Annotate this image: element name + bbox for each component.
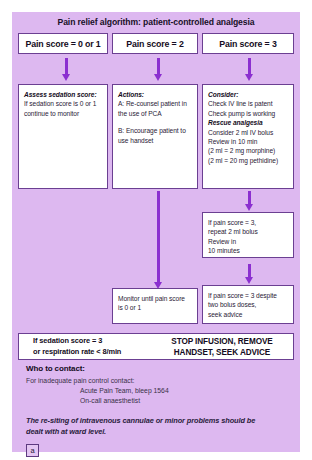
assess-sedation-heading: Assess sedation score: <box>24 90 103 99</box>
seek-advice-line-2: seek advice <box>208 310 289 319</box>
contact-section: Who to contact: For inadequate pain cont… <box>26 364 288 406</box>
arrow-col1-to-body <box>157 58 160 75</box>
score-header-box-0: Pain score = 0 or 1 <box>18 33 108 54</box>
alert-condition-line-0: If sedation score = 3 <box>33 336 159 347</box>
arrow-step2-to-step3 <box>248 264 251 278</box>
monitor-box: Monitor until pain score is 0 or 1 <box>112 288 198 324</box>
actions-heading: Actions: <box>118 90 193 99</box>
actions-text: Actions: A: Re-counsel patient in the us… <box>113 85 197 149</box>
consider-heading: Consider: <box>208 90 289 99</box>
actions-line-3: B: Encourage patient to <box>118 126 193 135</box>
seek-advice-line-1: two bolus doses, <box>208 300 289 309</box>
alert-condition-line-1: or respiration rate < 8/min <box>33 347 159 358</box>
actions-line-4: use handset <box>118 136 193 145</box>
figure-label-a: a <box>26 444 39 457</box>
score-header-label-1: Pain score = 2 <box>126 39 183 49</box>
seek-advice-text: If pain score = 3 despite two bolus dose… <box>203 286 293 323</box>
rescue-analgesia-subheading: Rescue analgesia <box>208 118 289 127</box>
arrow-actions-to-monitor <box>157 191 160 283</box>
seek-advice-line-0: If pain score = 3 despite <box>208 291 289 300</box>
contact-line-0: For inadequate pain control contact: <box>26 376 288 386</box>
repeat-bolus-line-2: Review in <box>208 237 289 246</box>
monitor-line-0: Monitor until pain score <box>118 294 193 303</box>
figure-title: Pain relief algorithm: patient-controlle… <box>12 17 300 27</box>
figure-panel: Pain relief algorithm: patient-controlle… <box>12 12 300 452</box>
consider-line-5: (2 ml = 20 mg pethidine) <box>208 156 289 165</box>
footnote: The re-siting of intravenous cannulae or… <box>26 416 292 437</box>
consider-line-1: Check pump is working <box>208 109 289 118</box>
assess-sedation-line-1: continue to monitor <box>24 109 103 118</box>
arrow-col0-to-body <box>65 58 68 75</box>
assess-sedation-line-0: If sedation score is 0 or 1 <box>24 99 103 108</box>
score-header-box-2: Pain score = 3 <box>202 33 294 54</box>
contact-indented-line-1: On-call anaesthetist <box>26 396 288 406</box>
contact-heading: Who to contact: <box>26 364 288 373</box>
monitor-text: Monitor until pain score is 0 or 1 <box>113 289 197 317</box>
assess-sedation-text: Assess sedation score: If sedation score… <box>19 85 107 122</box>
consider-line-0: Check IV line is patent <box>208 99 289 108</box>
consider-text: Consider: Check IV line is patent Check … <box>203 85 293 169</box>
alert-action-line-0: STOP INFUSION, REMOVE <box>159 336 285 347</box>
consider-line-4: (2 ml = 2 mg morphine) <box>208 146 289 155</box>
alert-action: STOP INFUSION, REMOVE HANDSET, SEEK ADVI… <box>159 336 293 358</box>
repeat-bolus-line-1: repeat 2 ml bolus <box>208 227 289 236</box>
score-header-label-2: Pain score = 3 <box>219 39 276 49</box>
consider-line-2: Consider 2 ml IV bolus <box>208 128 289 137</box>
arrow-consider-to-step2 <box>248 191 251 205</box>
critical-alert-box: If sedation score = 3 or respiration rat… <box>18 333 294 360</box>
actions-line-1: the use of PCA <box>118 109 193 118</box>
repeat-bolus-line-0: If pain score = 3, <box>208 218 289 227</box>
consider-line-3: Review in 10 min <box>208 137 289 146</box>
arrow-col2-to-body <box>248 58 251 75</box>
actions-box: Actions: A: Re-counsel patient in the us… <box>112 84 198 189</box>
alert-condition: If sedation score = 3 or respiration rat… <box>19 336 159 357</box>
repeat-bolus-box: If pain score = 3, repeat 2 ml bolus Rev… <box>202 212 294 258</box>
score-header-box-1: Pain score = 2 <box>112 33 198 54</box>
footnote-line-0: The re-siting of intravenous cannulae or… <box>26 416 292 427</box>
contact-indented-line-0: Acute Pain Team, bleep 1564 <box>26 386 288 396</box>
footnote-line-1: dealt with at ward level. <box>26 427 292 438</box>
alert-action-line-1: HANDSET, SEEK ADVICE <box>159 347 285 358</box>
score-header-label-0: Pain score = 0 or 1 <box>25 39 100 49</box>
actions-spacer <box>118 118 193 126</box>
consider-box: Consider: Check IV line is patent Check … <box>202 84 294 189</box>
seek-advice-box: If pain score = 3 despite two bolus dose… <box>202 285 294 324</box>
repeat-bolus-line-3: 10 minutes <box>208 246 289 255</box>
monitor-line-1: is 0 or 1 <box>118 303 193 312</box>
actions-line-0: A: Re-counsel patient in <box>118 99 193 108</box>
assess-sedation-box: Assess sedation score: If sedation score… <box>18 84 108 189</box>
repeat-bolus-text: If pain score = 3, repeat 2 ml bolus Rev… <box>203 213 293 260</box>
